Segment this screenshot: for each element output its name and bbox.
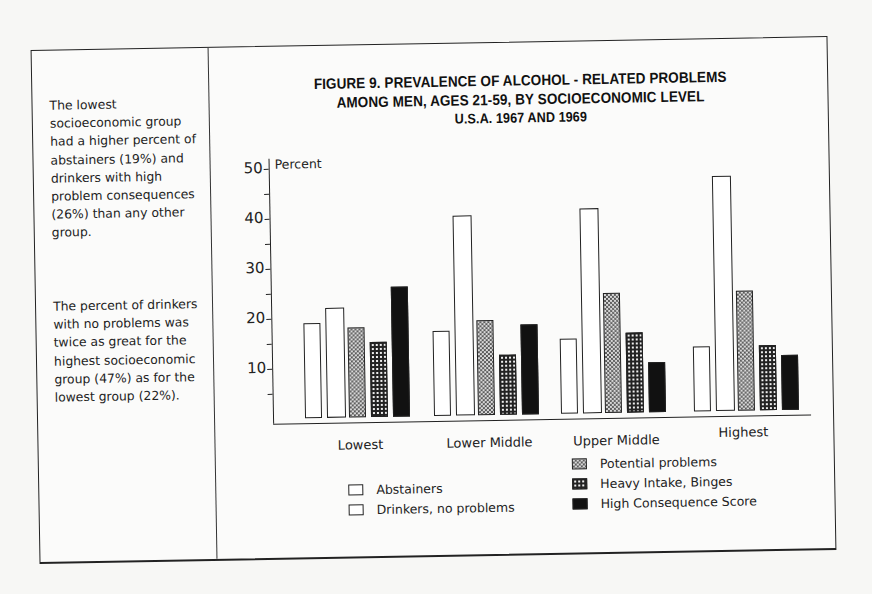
y-tick [265,269,270,270]
y-tick [267,369,272,370]
sidebar-note-no-problems: The percent of drinkers with no problems… [53,295,205,407]
legend-swatch-abstainers [348,484,363,495]
bar-high-consequence-score-lowest [391,286,410,416]
bar-potential-problems-upper-middle [603,293,622,413]
legend-swatch-heavy [572,478,587,489]
y-tick [265,244,270,245]
bar-potential-problems-lower-middle [476,320,495,415]
legend-label: Potential problems [600,454,717,471]
bars [269,149,809,158]
bar-drinkers-no-problems-lowest [325,308,346,418]
bar-abstainers-lowest [303,323,322,418]
panel-divider [208,48,218,559]
bar-potential-problems-lowest [347,327,366,417]
y-tick [265,219,270,220]
legend-swatch-high [572,498,587,509]
legend-label: Abstainers [376,481,443,497]
category-label: Lowest [338,437,384,453]
y-tick-label: 10 [236,359,266,378]
y-tick [264,194,269,195]
bar-plot: Percent 1020304050 LowestLower MiddleUpp… [269,149,814,428]
y-tick [266,319,271,320]
y-tick-label: 40 [233,209,263,228]
sidebar-note-abstainers: The lowest socioeconomic group had a hig… [49,94,202,242]
figure-frame: The lowest socioeconomic group had a hig… [31,36,837,564]
bar-heavy-intake-binges-upper-middle [626,332,644,412]
bar-potential-problems-highest [736,290,755,410]
bar-drinkers-no-problems-lower-middle [453,215,475,415]
y-axis [269,159,275,424]
category-label: Highest [718,424,768,440]
bar-abstainers-highest [693,346,711,411]
bar-high-consequence-score-upper-middle [648,362,666,412]
y-tick-label: 50 [233,159,263,178]
bar-drinkers-no-problems-highest [712,176,735,411]
bar-heavy-intake-binges-lower-middle [499,355,517,415]
bar-abstainers-upper-middle [560,339,578,414]
legend-swatch-no-problems [349,504,364,515]
legend-label: Drinkers, no problems [377,500,515,517]
category-labels: LowestLower MiddleUpper MiddleHighest [269,149,809,158]
y-tick [267,344,272,345]
category-label: Lower Middle [446,434,532,450]
bar-heavy-intake-binges-highest [759,345,777,410]
legend-label: High Consequence Score [600,493,756,511]
bar-drinkers-no-problems-upper-middle [579,208,602,413]
bar-high-consequence-score-lower-middle [520,324,539,414]
y-axis-ticks: 1020304050 [269,149,809,158]
bar-heavy-intake-binges-lowest [370,342,388,417]
y-axis-label: Percent [274,156,321,172]
bar-high-consequence-score-highest [781,355,799,410]
chart-title: FIGURE 9. PREVALENCE OF ALCOHOL - RELATE… [250,66,791,132]
y-tick-label: 20 [235,309,265,328]
bar-abstainers-lower-middle [433,331,451,416]
y-tick [268,394,273,395]
category-label: Upper Middle [573,432,660,449]
y-tick [264,169,269,170]
legend-label: Heavy Intake, Binges [600,474,732,491]
legend-swatch-potential [572,458,587,469]
y-tick [266,294,271,295]
y-tick-label: 30 [234,259,264,278]
